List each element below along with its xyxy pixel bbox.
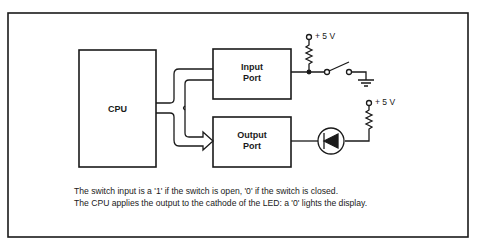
output-port-label: Output Port [213,130,291,152]
switch-supply-label: + 5 V [315,31,335,41]
resistor-icon [306,40,312,72]
input-port-label: Input Port [213,62,291,84]
cpu-label: CPU [79,104,156,115]
led-circuit [291,101,372,155]
caption-line-2: The CPU applies the output to the cathod… [74,198,367,209]
switch-circuit [291,35,374,87]
circuit-diagram [0,0,478,252]
supply-terminal-icon [307,35,312,40]
data-bus-arrow [156,69,213,150]
caption-line-1: The switch input is a '1' if the switch … [74,186,338,197]
supply-terminal-icon [367,101,372,106]
led-supply-label: + 5 V [375,97,395,107]
switch-contact-icon [325,70,330,75]
switch-icon [329,62,349,71]
resistor-icon [345,106,372,141]
ground-icon [358,80,374,86]
